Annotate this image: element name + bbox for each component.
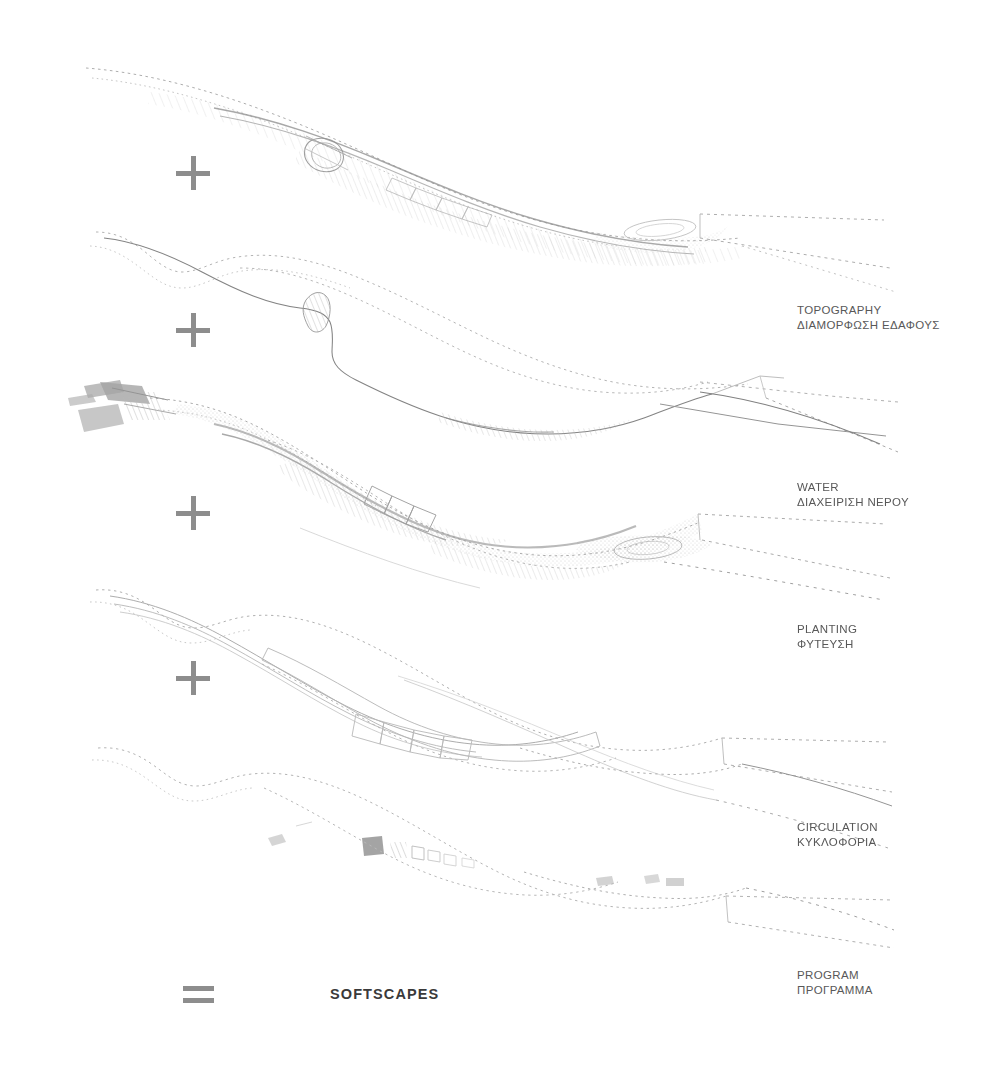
layer-label-water: WATER ΔΙΑΧΕΙΡΙΣΗ ΝΕΡΟΥ [797,480,909,510]
layer-label-topography: TOPOGRAPHY ΔΙΑΜΟΡΦΩΣΗ ΕΔΑΦΟΥΣ [797,303,940,333]
layer-label-planting-el: ΦΥΤΕΥΣΗ [797,637,857,652]
plus-icon-3 [176,496,210,530]
layer-label-planting-en: PLANTING [797,622,857,637]
equals-icon [183,986,214,1003]
layer-band-5 [92,748,894,948]
program-blocks [268,822,684,886]
plus-icon-1 [176,156,210,190]
layer-label-program-en: PROGRAM [797,968,873,983]
layer-label-program-el: ΠΡΟΓΡΑΜΜΑ [797,983,873,998]
layer-label-planting: PLANTING ΦΥΤΕΥΣΗ [797,622,857,652]
layer-label-program: PROGRAM ΠΡΟΓΡΑΜΜΑ [797,968,873,998]
water-edge-blocks [68,380,176,432]
layer-label-water-el: ΔΙΑΧΕΙΡΙΣΗ ΝΕΡΟΥ [797,495,909,510]
layer-label-water-en: WATER [797,480,909,495]
layer-band-4 [90,590,892,848]
layer-label-circulation-en: CIRCULATION [797,820,878,835]
layer-label-circulation-el: ΚΥΚΛΟΦΟΡΙΑ [797,835,878,850]
layered-landscape-drawing [0,0,1008,1066]
layer-label-topography-el: ΔΙΑΜΟΡΦΩΣΗ ΕΔΑΦΟΥΣ [797,318,940,333]
layer-label-circulation: CIRCULATION ΚΥΚΛΟΦΟΡΙΑ [797,820,878,850]
layer-label-topography-en: TOPOGRAPHY [797,303,940,318]
diagram-canvas: TOPOGRAPHY ΔΙΑΜΟΡΦΩΣΗ ΕΔΑΦΟΥΣ WATER ΔΙΑΧ… [0,0,1008,1066]
layer-band-3 [68,380,890,600]
plus-icon-4 [176,661,210,695]
plus-icon-2 [176,313,210,347]
result-title: SOFTSCAPES [330,986,439,1002]
